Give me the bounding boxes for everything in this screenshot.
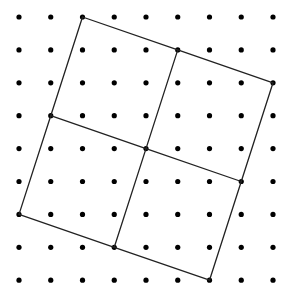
grid-dot [143, 113, 148, 118]
grid-dot [143, 14, 148, 19]
grid-dot [270, 14, 275, 19]
grid-dot [48, 14, 53, 19]
grid-dot [207, 80, 212, 85]
grid-dot [112, 113, 117, 118]
grid-dot [239, 113, 244, 118]
grid-dot [48, 212, 53, 217]
segment-BC [178, 50, 273, 83]
grid-dot [80, 113, 85, 118]
grid-dot [16, 278, 21, 283]
grid-dot [16, 146, 21, 151]
grid-dot [207, 146, 212, 151]
grid-dot [239, 278, 244, 283]
grid-dot [16, 179, 21, 184]
grid-dot [207, 212, 212, 217]
grid-dot [112, 47, 117, 52]
segment-AB [83, 17, 178, 50]
grid-dot [112, 80, 117, 85]
segment-HO [51, 116, 146, 149]
grid-dot [207, 14, 212, 19]
grid-dot [143, 80, 148, 85]
grid-dot [143, 179, 148, 184]
grid-dot [239, 80, 244, 85]
segment-CD [241, 83, 273, 182]
grid-dot [175, 212, 180, 217]
grid-dot [80, 47, 85, 52]
grid-dot [16, 113, 21, 118]
tilted-square-outline [19, 17, 273, 280]
grid-dot [207, 179, 212, 184]
grid-dot [270, 47, 275, 52]
grid-dot [48, 179, 53, 184]
segment-BO [146, 50, 178, 149]
grid-dot [112, 146, 117, 151]
grid-dot [207, 245, 212, 250]
grid-dot [175, 146, 180, 151]
dot-grid-diagram [0, 0, 292, 305]
grid-dot [270, 113, 275, 118]
grid-dot [207, 113, 212, 118]
grid-dot [80, 278, 85, 283]
grid-dot [48, 278, 53, 283]
grid-dot [143, 47, 148, 52]
grid-dot [175, 278, 180, 283]
grid-dot [270, 179, 275, 184]
grid-dot [112, 179, 117, 184]
grid-dot [48, 146, 53, 151]
grid-dot [112, 14, 117, 19]
grid-dot [175, 179, 180, 184]
grid-dot [175, 245, 180, 250]
segment-OF [114, 149, 146, 248]
grid-dot [239, 212, 244, 217]
grid-dot [48, 47, 53, 52]
grid-dot [175, 14, 180, 19]
grid-dot [270, 278, 275, 283]
segment-EF [114, 247, 209, 280]
grid-dot [16, 245, 21, 250]
grid-dot [16, 80, 21, 85]
grid-dot [239, 146, 244, 151]
grid-dot [239, 47, 244, 52]
segment-HA [51, 17, 83, 116]
grid-dot [48, 245, 53, 250]
grid-dot [80, 212, 85, 217]
grid-dot [143, 245, 148, 250]
grid-dot [270, 212, 275, 217]
segment-DE [210, 182, 242, 281]
grid-dot [16, 47, 21, 52]
grid-dot [143, 278, 148, 283]
segment-GH [19, 116, 51, 215]
grid-dot [270, 245, 275, 250]
grid-dot [270, 146, 275, 151]
grid-dot [175, 80, 180, 85]
grid-dot [80, 245, 85, 250]
grid-dot [143, 212, 148, 217]
grid-dot [80, 80, 85, 85]
segment-FG [19, 214, 114, 247]
grid-dot [80, 179, 85, 184]
grid-dot [112, 278, 117, 283]
grid-dot [112, 212, 117, 217]
grid-dot [16, 14, 21, 19]
grid-dot [175, 113, 180, 118]
grid-dot [239, 245, 244, 250]
segment-OD [146, 149, 241, 182]
grid-dot [80, 146, 85, 151]
grid-dot [48, 80, 53, 85]
grid-dot [207, 47, 212, 52]
grid-dot [239, 14, 244, 19]
